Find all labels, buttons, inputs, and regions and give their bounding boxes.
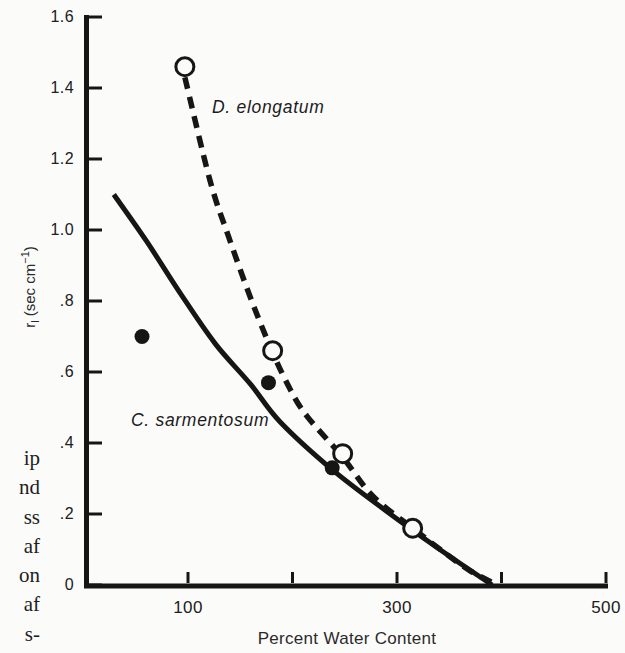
series-label-d-elongatum: D. elongatum <box>212 97 325 118</box>
y-tick-label: 1.4 <box>0 78 74 98</box>
y-axis-unit-close: ) <box>21 246 38 251</box>
data-point-open-circle <box>264 342 282 360</box>
curve-c-sarmentosum <box>114 195 492 586</box>
curve-d-elongatum <box>185 77 497 585</box>
data-point-open-circle <box>404 519 422 537</box>
caption-fragment: ss <box>0 503 40 532</box>
y-axis-symbol-subscript: l <box>29 320 41 322</box>
x-tick-label: 500 <box>576 597 625 619</box>
x-axis-title: Percent Water Content <box>237 629 457 651</box>
y-axis-unit-open: (sec cm <box>21 264 38 321</box>
data-point-filled-circle <box>135 329 150 344</box>
caption-fragment: on <box>0 561 40 590</box>
caption-fragment: af <box>0 590 40 619</box>
caption-fragment: ip <box>0 444 40 473</box>
y-tick-label: 1.2 <box>0 149 74 169</box>
y-tick-label: .6 <box>0 362 74 382</box>
caption-fragment: nd <box>0 473 40 502</box>
x-tick-label: 300 <box>367 597 427 619</box>
caption-fragment: s- <box>0 620 40 649</box>
cropped-caption-text: ip nd ss af on af s- <box>0 444 40 649</box>
y-tick-label: 1.6 <box>0 7 74 27</box>
caption-fragment: af <box>0 532 40 561</box>
series-label-c-sarmentosum: C. sarmentosum <box>131 410 269 431</box>
y-axis-symbol: r <box>21 323 38 328</box>
y-axis-unit-exponent: −1 <box>19 251 31 264</box>
data-point-open-circle <box>176 58 194 76</box>
y-tick-label: 1.0 <box>0 220 74 240</box>
data-point-open-circle <box>334 445 352 463</box>
data-point-filled-circle <box>261 375 276 390</box>
y-axis-title: rl (sec cm−1) <box>15 223 35 351</box>
x-tick-label: 100 <box>158 597 218 619</box>
